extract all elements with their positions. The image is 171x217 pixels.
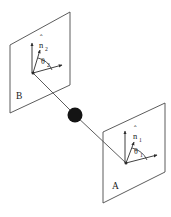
- plane-b-normal-vector-arrow: [33, 50, 40, 73]
- plane-a-normal-symbol: n: [133, 131, 138, 141]
- ray-to-plane-b: [33, 73, 75, 115]
- plane-b-label: B: [16, 91, 22, 101]
- figure-container: B A ˆ n 2 θ 2 ˆ n 1 θ 1: [0, 0, 171, 217]
- plane-b-vertex-dot: [32, 72, 35, 75]
- source-particle-dot: [68, 108, 83, 123]
- plane-b-angle-symbol: θ: [41, 57, 45, 66]
- plane-a-normal-subscript: 1: [139, 137, 142, 143]
- plane-a-angle-subscript: 1: [140, 152, 143, 158]
- plane-a-normal-vector-arrow: [126, 142, 134, 163]
- diagram-canvas: B A ˆ n 2 θ 2 ˆ n 1 θ 1: [0, 0, 171, 217]
- plane-b-angle-subscript: 2: [47, 62, 50, 68]
- plane-b-normal-symbol: n: [39, 40, 44, 50]
- plane-b-normal-subscript: 2: [45, 46, 48, 52]
- plane-a-vertex-dot: [125, 162, 128, 165]
- ray-to-plane-a: [75, 115, 126, 163]
- plane-a-angle-symbol: θ: [134, 147, 138, 156]
- plane-a-label: A: [112, 181, 119, 191]
